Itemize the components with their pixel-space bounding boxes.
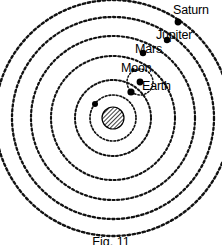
label-saturn: Saturn (173, 4, 209, 17)
label-jupiter: Jupiter (156, 29, 192, 42)
label-mars: Mars (135, 43, 162, 56)
figure-container: Saturn Jupiter Mars Moon Earth Fig. 11 (0, 0, 222, 245)
planet-mercury (92, 101, 98, 107)
figure-caption: Fig. 11 (0, 236, 222, 245)
label-moon: Moon (121, 62, 151, 75)
planet-venus (127, 88, 134, 95)
sun-disc (102, 107, 124, 129)
planet-saturn (175, 19, 182, 26)
label-earth: Earth (142, 80, 171, 93)
